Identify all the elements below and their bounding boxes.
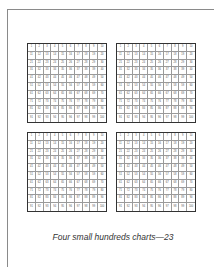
chart-cell: 49 bbox=[179, 164, 187, 172]
chart-cell: 22 bbox=[125, 60, 133, 68]
chart-cell: 6 bbox=[67, 44, 75, 52]
chart-cell: 39 bbox=[90, 67, 98, 75]
chart-cell: 60 bbox=[98, 172, 106, 180]
chart-cell: 22 bbox=[125, 149, 133, 157]
chart-cell: 48 bbox=[83, 164, 91, 172]
chart-cell: 22 bbox=[36, 60, 44, 68]
chart-cell: 95 bbox=[148, 203, 156, 211]
page-caption: Four small hundreds charts—23 bbox=[0, 232, 214, 242]
chart-cell: 38 bbox=[83, 156, 91, 164]
chart-cell: 82 bbox=[36, 106, 44, 114]
chart-cell: 30 bbox=[187, 60, 195, 68]
chart-cell: 20 bbox=[98, 52, 106, 60]
chart-cell: 69 bbox=[179, 180, 187, 188]
chart-cell: 9 bbox=[90, 44, 98, 52]
chart-cell: 78 bbox=[83, 99, 91, 107]
chart-cell: 89 bbox=[179, 106, 187, 114]
chart-cell: 3 bbox=[44, 44, 52, 52]
chart-cell: 92 bbox=[125, 203, 133, 211]
chart-cell: 18 bbox=[172, 141, 180, 149]
chart-cell: 7 bbox=[75, 133, 83, 141]
chart-cell: 43 bbox=[44, 75, 52, 83]
chart-cell: 79 bbox=[90, 188, 98, 196]
chart-cell: 45 bbox=[148, 75, 156, 83]
chart-cell: 22 bbox=[36, 149, 44, 157]
chart-cell: 68 bbox=[172, 180, 180, 188]
chart-cell: 41 bbox=[117, 75, 125, 83]
chart-cell: 7 bbox=[164, 44, 172, 52]
chart-cell: 15 bbox=[59, 141, 67, 149]
chart-cell: 47 bbox=[75, 75, 83, 83]
chart-cell: 46 bbox=[156, 75, 164, 83]
chart-cell: 67 bbox=[164, 180, 172, 188]
chart-cell: 27 bbox=[164, 60, 172, 68]
chart-cell: 100 bbox=[98, 114, 106, 122]
chart-cell: 59 bbox=[179, 83, 187, 91]
chart-cell: 37 bbox=[75, 156, 83, 164]
chart-cell: 59 bbox=[179, 172, 187, 180]
chart-cell: 24 bbox=[140, 149, 148, 157]
chart-cell: 19 bbox=[179, 52, 187, 60]
chart-cell: 16 bbox=[67, 141, 75, 149]
chart-cell: 97 bbox=[164, 114, 172, 122]
chart-cell: 78 bbox=[172, 99, 180, 107]
chart-cell: 29 bbox=[90, 60, 98, 68]
chart-cell: 40 bbox=[98, 156, 106, 164]
chart-cell: 66 bbox=[67, 180, 75, 188]
chart-cell: 78 bbox=[172, 188, 180, 196]
chart-cell: 85 bbox=[148, 195, 156, 203]
chart-cell: 78 bbox=[83, 188, 91, 196]
chart-cell: 76 bbox=[156, 99, 164, 107]
chart-cell: 90 bbox=[187, 106, 195, 114]
chart-cell: 75 bbox=[148, 99, 156, 107]
chart-cell: 23 bbox=[133, 60, 141, 68]
hundreds-chart-bottom-right: 1234567891011121314151617181920212223242… bbox=[116, 132, 196, 212]
chart-cell: 82 bbox=[125, 195, 133, 203]
chart-cell: 93 bbox=[44, 203, 52, 211]
chart-cell: 19 bbox=[179, 141, 187, 149]
chart-cell: 27 bbox=[164, 149, 172, 157]
chart-cell: 38 bbox=[172, 156, 180, 164]
chart-cell: 34 bbox=[51, 156, 59, 164]
chart-cell: 57 bbox=[75, 83, 83, 91]
chart-cell: 34 bbox=[51, 67, 59, 75]
chart-cell: 65 bbox=[59, 180, 67, 188]
chart-cell: 61 bbox=[28, 91, 36, 99]
chart-cell: 39 bbox=[179, 156, 187, 164]
chart-cell: 49 bbox=[90, 75, 98, 83]
chart-cell: 14 bbox=[140, 52, 148, 60]
chart-cell: 67 bbox=[75, 180, 83, 188]
chart-cell: 73 bbox=[133, 99, 141, 107]
chart-cell: 62 bbox=[125, 180, 133, 188]
chart-cell: 64 bbox=[51, 180, 59, 188]
chart-cell: 96 bbox=[67, 203, 75, 211]
chart-cell: 16 bbox=[156, 141, 164, 149]
chart-cell: 85 bbox=[148, 106, 156, 114]
chart-cell: 27 bbox=[75, 60, 83, 68]
chart-cell: 44 bbox=[140, 75, 148, 83]
chart-cell: 90 bbox=[187, 195, 195, 203]
chart-cell: 88 bbox=[172, 106, 180, 114]
chart-cell: 76 bbox=[156, 188, 164, 196]
chart-cell: 54 bbox=[140, 83, 148, 91]
chart-cell: 81 bbox=[117, 106, 125, 114]
chart-cell: 54 bbox=[51, 172, 59, 180]
chart-cell: 31 bbox=[28, 67, 36, 75]
chart-cell: 30 bbox=[187, 149, 195, 157]
chart-cell: 77 bbox=[164, 188, 172, 196]
chart-cell: 2 bbox=[36, 44, 44, 52]
chart-cell: 94 bbox=[51, 114, 59, 122]
chart-cell: 34 bbox=[140, 156, 148, 164]
chart-cell: 84 bbox=[51, 195, 59, 203]
chart-cell: 70 bbox=[187, 91, 195, 99]
chart-cell: 54 bbox=[140, 172, 148, 180]
chart-cell: 87 bbox=[75, 106, 83, 114]
chart-cell: 53 bbox=[133, 172, 141, 180]
chart-cell: 38 bbox=[172, 67, 180, 75]
chart-cell: 95 bbox=[148, 114, 156, 122]
chart-cell: 23 bbox=[44, 149, 52, 157]
chart-cell: 8 bbox=[83, 44, 91, 52]
chart-cell: 86 bbox=[67, 195, 75, 203]
chart-cell: 5 bbox=[59, 133, 67, 141]
chart-cell: 14 bbox=[51, 52, 59, 60]
